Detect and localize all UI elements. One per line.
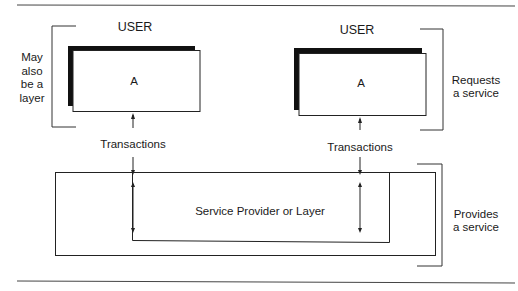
provider-label: Service Provider or Layer xyxy=(170,205,350,218)
user-box-right-label: A xyxy=(353,77,369,90)
arrowhead-icon xyxy=(358,228,362,233)
arrowhead-icon xyxy=(131,228,135,233)
note-line: a service xyxy=(448,87,504,100)
transactions-label-left: Transactions xyxy=(93,138,173,151)
user-box-left-label: A xyxy=(126,75,142,88)
transactions-label-right: Transactions xyxy=(320,141,400,154)
note-line: Requests xyxy=(448,74,504,87)
note-line: layer xyxy=(14,92,50,106)
requests-service-note: Requests a service xyxy=(448,74,504,100)
note-line: be a xyxy=(14,78,50,92)
arrowhead-icon xyxy=(358,117,362,123)
left-bracket-note: May also be a layer xyxy=(14,51,50,105)
note-line: a service xyxy=(448,221,504,234)
diagram-canvas xyxy=(0,0,518,291)
top-rule xyxy=(17,5,515,6)
note-line: also xyxy=(14,65,50,79)
user-heading-right: USER xyxy=(332,24,382,37)
note-line: May xyxy=(14,51,50,65)
right-bracket-provider xyxy=(417,164,442,266)
bottom-rule xyxy=(17,281,515,283)
provides-service-note: Provides a service xyxy=(448,208,504,234)
user-heading-left: USER xyxy=(110,21,160,34)
arrowhead-icon xyxy=(131,113,135,119)
note-line: Provides xyxy=(448,208,504,221)
